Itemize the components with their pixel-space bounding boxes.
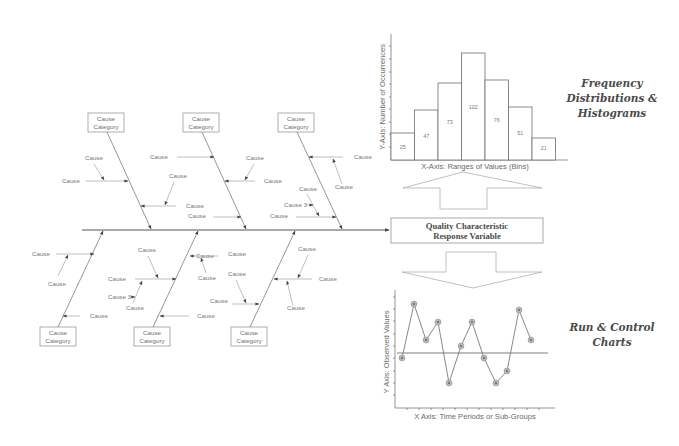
bar-value-label: 76: [494, 117, 500, 123]
cause-category-label: Cause: [97, 115, 115, 122]
cause-label: Cause: [85, 154, 103, 161]
run-chart-x-axis-label: X Axis: Time Periods or Sub-Groups: [414, 412, 536, 421]
cause-category-label: Category: [139, 337, 165, 344]
cause-category-label: Cause: [192, 115, 210, 122]
cause-label: Cause: [246, 154, 264, 161]
cause-label: Cause: [188, 212, 206, 219]
bar-value-label: 51: [517, 130, 523, 136]
histogram-title: Frequency Distributions & Histograms: [566, 77, 658, 119]
cause-label: Cause: [90, 312, 108, 319]
cause-label: Cause: [138, 246, 156, 253]
run-chart: X Axis: Time Periods or Sub-Groups Y Axi…: [382, 290, 555, 421]
fishbone-diagram: Cause Category Cause Cause Cause Cause C…: [32, 113, 389, 346]
cause-3-label: Cause 3: [284, 201, 308, 208]
run-chart-y-axis-label: Y Axis: Observed Values: [382, 310, 391, 393]
cause-category-label: Cause: [49, 329, 67, 336]
cause-label: Cause: [196, 252, 214, 259]
cause-label: Cause: [32, 250, 50, 257]
top-bone-3: Cause Category Cause Cause Cause Cause 3…: [270, 113, 372, 229]
cause-category-label: Cause: [143, 329, 161, 336]
histogram-y-axis-label: Y-Axis: Number of Occurrences: [378, 44, 387, 150]
up-arrow-icon: [403, 172, 542, 209]
down-arrow-icon: [402, 252, 542, 288]
bottom-bone-3: Cause Category Cause Cause Cause Cause C…: [210, 231, 337, 346]
top-bone-2: Cause Category Cause Cause Cause Cause: [150, 113, 282, 229]
cause-label: Cause: [264, 177, 282, 184]
cause-label: Cause: [108, 275, 126, 282]
cause-label: Cause: [186, 202, 204, 209]
cause-label: Cause: [319, 275, 337, 282]
bar-value-label: 102: [469, 104, 478, 110]
quality-tools-diagram: Cause Category Cause Cause Cause Cause C…: [0, 0, 679, 446]
svg-text:Charts: Charts: [592, 336, 631, 348]
cause-label: Cause: [150, 153, 168, 160]
bottom-bone-2: Cause Category Cause Cause Cause 3 Cause…: [108, 231, 218, 346]
cause-label: Cause: [210, 297, 228, 304]
cause-label: Cause: [228, 270, 246, 277]
cause-category-label: Category: [188, 123, 214, 130]
bottom-bone-1: Cause Category Cause Cause Cause: [32, 231, 108, 346]
svg-text:Distributions &: Distributions &: [566, 92, 658, 104]
response-variable-label: Response Variable: [433, 231, 501, 241]
cause-category-label: Cause: [287, 115, 305, 122]
cause-label: Cause: [270, 212, 288, 219]
bar-value-label: 47: [423, 133, 429, 139]
cause-label: Cause: [62, 177, 80, 184]
bar-value-label: 25: [400, 144, 406, 150]
cause-label: Cause: [197, 312, 215, 319]
run-chart-title: Run & Control Charts: [568, 321, 654, 348]
svg-text:Run & Control: Run & Control: [568, 321, 654, 333]
cause-3-label: Cause 3: [108, 293, 132, 300]
run-chart-line: [402, 304, 531, 383]
quality-characteristic-label: Quality Characteristic: [426, 221, 509, 231]
run-chart-points: [399, 301, 534, 386]
cause-label: Cause: [126, 304, 144, 311]
cause-label: Cause: [228, 250, 246, 257]
cause-label: Cause: [298, 245, 316, 252]
cause-label: Cause: [169, 172, 187, 179]
cause-category-label: Cause: [240, 329, 258, 336]
cause-category-label: Category: [93, 123, 119, 130]
histogram-chart: 25 47 73 102 76 51 21 X-Axis: Ranges of …: [378, 34, 568, 171]
svg-text:Frequency: Frequency: [580, 77, 643, 89]
svg-text:Histograms: Histograms: [577, 107, 646, 119]
quality-characteristic-box: Quality Characteristic Response Variable: [391, 218, 543, 243]
cause-label: Cause: [299, 185, 317, 192]
cause-category-label: Category: [236, 337, 262, 344]
cause-label: Cause: [198, 274, 216, 281]
bar-value-label: 73: [447, 119, 453, 125]
histogram-x-axis-label: X-Axis: Ranges of Values (Bins): [421, 162, 529, 171]
cause-label: Cause: [335, 183, 353, 190]
cause-label: Cause: [354, 153, 372, 160]
cause-label: Cause: [48, 280, 66, 287]
bar-value-label: 21: [541, 145, 547, 151]
cause-label: Cause: [287, 304, 305, 311]
cause-category-label: Category: [45, 337, 71, 344]
cause-category-label: Category: [283, 123, 309, 130]
